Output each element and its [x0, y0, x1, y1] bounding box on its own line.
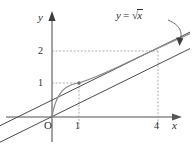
secant-line-through-origin [0, 49, 190, 143]
y-tick-label-2: 2 [38, 46, 43, 56]
math-figure: y x O 1 4 1 2 y=√x [0, 0, 192, 147]
plot-canvas [0, 0, 192, 147]
x-axis-label: x [172, 120, 177, 131]
point-1-1 [77, 81, 80, 84]
sqrt-curve [52, 34, 190, 117]
radical-expression: √x [131, 9, 143, 21]
radical-argument: x [137, 9, 143, 21]
y-axis-label: y [38, 12, 43, 23]
origin-label: O [44, 120, 52, 131]
x-tick-label-1: 1 [75, 121, 80, 131]
y-axis-arrowhead [48, 11, 55, 21]
y-tick-label-1: 1 [38, 78, 43, 88]
x-tick-label-4: 4 [154, 121, 159, 131]
equation-equals: = [121, 9, 131, 21]
curve-equation-label: y=√x [116, 9, 143, 21]
